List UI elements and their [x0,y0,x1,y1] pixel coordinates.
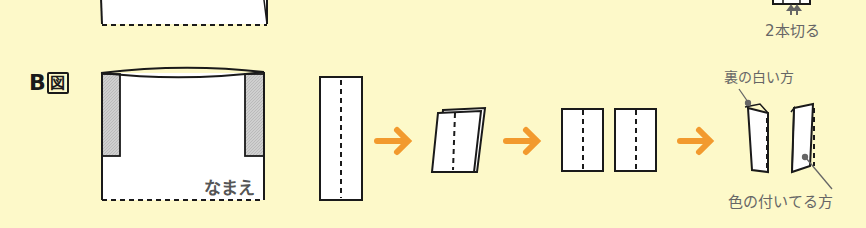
figure-a-partial [101,0,267,25]
arrow-right-icon [506,130,537,152]
folded-pieces [745,104,814,172]
two-pieces [562,109,656,171]
figure-kanji: 図 [47,72,69,94]
long-strip [320,77,362,200]
colored-side-label: 色の付いてる方 [728,190,833,211]
folded-strip [432,108,485,172]
figure-letter: B [29,70,46,95]
figure-label: B図 [29,70,69,95]
arrow-right-icon [680,130,710,152]
white-back-label: 裏の白い方 [724,66,794,86]
name-area-text: なまえ [204,174,255,199]
up-arrow-icon [788,6,800,15]
cut-instruction-text: 2本切る [765,19,820,40]
cut-marker [773,0,810,15]
arrow-right-icon [377,130,408,152]
